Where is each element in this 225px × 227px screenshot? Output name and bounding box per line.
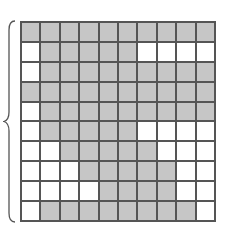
grid-cell-shaded xyxy=(176,201,195,221)
grid-cell-shaded xyxy=(79,22,98,42)
grid-cell-shaded xyxy=(40,82,59,102)
grid-cell-empty xyxy=(196,181,215,201)
grid-cell-shaded xyxy=(137,102,156,122)
grid-cell-shaded xyxy=(99,161,118,181)
grid-cell-empty xyxy=(176,42,195,62)
grid-cell-shaded xyxy=(196,62,215,82)
grid-cell-shaded xyxy=(137,181,156,201)
grid-cell-empty xyxy=(60,161,79,181)
grid-cell-shaded xyxy=(118,161,137,181)
grid-cell-shaded xyxy=(196,82,215,102)
grid-cell-shaded xyxy=(137,141,156,161)
grid-cell-shaded xyxy=(99,121,118,141)
grid-cell-shaded xyxy=(176,102,195,122)
grid-cell-shaded xyxy=(99,141,118,161)
grid-cell-empty xyxy=(21,161,40,181)
grid-cell-empty xyxy=(21,102,40,122)
grid-cell-shaded xyxy=(79,201,98,221)
grid-cell-empty xyxy=(196,161,215,181)
grid-cell-shaded xyxy=(137,161,156,181)
grid-cell-empty xyxy=(157,121,176,141)
grid-cell-shaded xyxy=(40,42,59,62)
grid-cell-shaded xyxy=(99,22,118,42)
grid-cell-shaded xyxy=(176,62,195,82)
grid-cell-shaded xyxy=(79,141,98,161)
grid-cell-shaded xyxy=(118,141,137,161)
grid-cell-shaded xyxy=(60,62,79,82)
grid-cell-empty xyxy=(40,161,59,181)
grid-cell-shaded xyxy=(137,62,156,82)
grid-cell-shaded xyxy=(60,82,79,102)
grid-cell-shaded xyxy=(21,82,40,102)
grid-cell-empty xyxy=(157,141,176,161)
grid-cell-empty xyxy=(40,141,59,161)
grid-cell-empty xyxy=(137,121,156,141)
grid-cell-shaded xyxy=(196,22,215,42)
grid-cell-empty xyxy=(79,181,98,201)
grid-cell-shaded xyxy=(118,201,137,221)
grid-cell-empty xyxy=(40,181,59,201)
grid-cell-shaded xyxy=(79,121,98,141)
grid-cell-empty xyxy=(21,181,40,201)
grid-cell-empty xyxy=(176,161,195,181)
grid-cell-empty xyxy=(137,42,156,62)
grid-cell-empty xyxy=(21,141,40,161)
grid-cell-shaded xyxy=(79,102,98,122)
grid-cell-shaded xyxy=(79,62,98,82)
grid-cell-shaded xyxy=(40,121,59,141)
grid-cell-empty xyxy=(157,42,176,62)
grid-cell-empty xyxy=(196,201,215,221)
grid-cell-shaded xyxy=(40,22,59,42)
grid-cell-shaded xyxy=(157,201,176,221)
grid-cell-shaded xyxy=(60,22,79,42)
grid-cell-shaded xyxy=(99,62,118,82)
grid-cell-shaded xyxy=(118,102,137,122)
grid-cell-empty xyxy=(196,141,215,161)
grid-cell-shaded xyxy=(118,181,137,201)
grid-cell-shaded xyxy=(157,62,176,82)
grid-cell-shaded xyxy=(79,82,98,102)
grid-cell-empty xyxy=(21,121,40,141)
grid-cell-shaded xyxy=(40,201,59,221)
grid-cell-shaded xyxy=(99,201,118,221)
grid-cell-shaded xyxy=(137,22,156,42)
grid-cell-shaded xyxy=(118,82,137,102)
grid-cell-shaded xyxy=(118,42,137,62)
grid-cell-empty xyxy=(176,141,195,161)
grid-cell-shaded xyxy=(60,42,79,62)
grid-cell-empty xyxy=(176,121,195,141)
grid-cell-empty xyxy=(21,62,40,82)
grid-cell-empty xyxy=(176,181,195,201)
grid-cell-shaded xyxy=(40,102,59,122)
grid-cell-shaded xyxy=(21,22,40,42)
grid-cell-shaded xyxy=(157,181,176,201)
left-brace-icon xyxy=(3,20,17,223)
grid-cell-shaded xyxy=(60,141,79,161)
grid-cell-shaded xyxy=(99,82,118,102)
grid-cell-shaded xyxy=(118,121,137,141)
grid-cell-empty xyxy=(196,121,215,141)
grid-cell-shaded xyxy=(157,161,176,181)
grid-cell-shaded xyxy=(118,22,137,42)
grid-cell-shaded xyxy=(99,102,118,122)
grid-cell-shaded xyxy=(157,22,176,42)
grid-cell-shaded xyxy=(40,62,59,82)
grid-cell-shaded xyxy=(60,121,79,141)
grid-cell-shaded xyxy=(79,42,98,62)
grid-cell-empty xyxy=(60,181,79,201)
grid-cell-shaded xyxy=(60,201,79,221)
grid-cell-shaded xyxy=(157,102,176,122)
grid-cell-shaded xyxy=(118,62,137,82)
grid-cell-shaded xyxy=(196,102,215,122)
grid-cell-shaded xyxy=(176,82,195,102)
grid-cell-shaded xyxy=(60,102,79,122)
grid-cell-shaded xyxy=(157,82,176,102)
grid-cell-empty xyxy=(196,42,215,62)
grid-cell-empty xyxy=(21,201,40,221)
grid-cell-shaded xyxy=(137,82,156,102)
shaded-grid xyxy=(20,21,216,222)
grid-cell-shaded xyxy=(99,42,118,62)
grid-cell-shaded xyxy=(176,22,195,42)
grid-cell-shaded xyxy=(137,201,156,221)
grid-cell-shaded xyxy=(79,161,98,181)
